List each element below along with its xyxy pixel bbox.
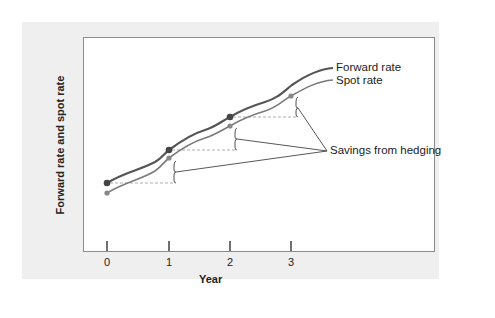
x-tick-1: 1 [166, 256, 172, 268]
legend-spot-rate: Spot rate [336, 74, 383, 86]
x-tick-2: 2 [227, 256, 233, 268]
dashed-guides [110, 117, 297, 183]
x-tick-0: 0 [104, 256, 110, 268]
chart-graphics [0, 0, 495, 318]
annotation-savings-from-hedging: Savings from hedging [330, 144, 441, 156]
legend-forward-rate: Forward rate [336, 61, 401, 73]
x-axis-label: Year [199, 273, 222, 285]
x-axis-ticks [107, 241, 291, 251]
x-tick-3: 3 [288, 256, 294, 268]
y-axis-label: Forward rate and spot rate [54, 76, 66, 215]
spot-rate-line [107, 80, 333, 193]
